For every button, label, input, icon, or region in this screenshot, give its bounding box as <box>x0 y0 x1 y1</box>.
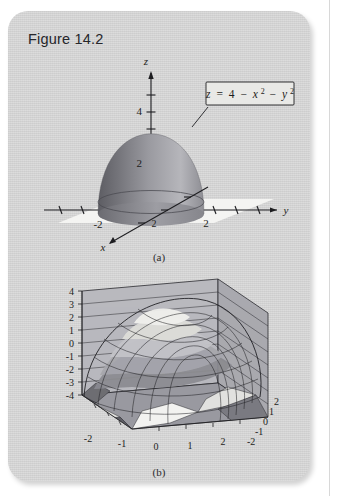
caption-a: (a) <box>8 251 310 263</box>
panel-b-z-tick-3: 3 <box>69 299 74 310</box>
x-axis-tick-2: 2 <box>152 218 157 229</box>
panel-a-svg: -2 2 2 4 2 z y x z = 4 − <box>22 47 298 251</box>
panel-b-y-tick-neg2: -2 <box>247 436 255 447</box>
panel-b-y-tick-1: 1 <box>269 406 274 417</box>
z-axis-tick-4: 4 <box>137 105 143 117</box>
panel-b-z-axis <box>78 291 82 395</box>
figure-title: Figure 14.2 <box>28 31 104 47</box>
panel-b-z-tick-1: 1 <box>69 325 74 336</box>
z-axis-tick-2: 2 <box>137 157 143 169</box>
panel-b-x-tick-1: 1 <box>188 440 193 451</box>
x-axis-label: x <box>100 241 106 251</box>
panel-b-z-tick-2: 2 <box>69 312 74 323</box>
page-gutter-rule <box>329 0 330 496</box>
z-axis-label: z <box>143 55 149 67</box>
panel-b-x-tick-0: 0 <box>154 441 159 452</box>
panel-b-z-tick-neg2: -2 <box>66 364 74 375</box>
equation-callout: z = 4 − x 2 − y 2 <box>205 82 294 105</box>
panel-b-y-tick-2: 2 <box>274 396 279 407</box>
panel-b-y-tick-0: 0 <box>263 416 268 427</box>
panel-b-mesh-plot: 4 3 2 1 0 -1 -2 -3 -4 <box>22 269 298 465</box>
figure-card: Figure 14.2 <box>8 11 310 481</box>
page-background: Figure 14.2 <box>0 0 340 496</box>
panel-b-z-tick-0: 0 <box>69 338 74 349</box>
panel-b-x-tick-neg2: -2 <box>84 433 92 444</box>
panel-b-svg: 4 3 2 1 0 -1 -2 -3 -4 <box>22 269 298 465</box>
y-axis-tick-2: 2 <box>203 217 209 229</box>
panel-b-z-tick-4: 4 <box>69 286 74 297</box>
panel-b-z-tick-neg1: -1 <box>66 351 74 362</box>
y-axis-label: y <box>283 204 289 216</box>
y-axis-tick-neg2: -2 <box>93 218 102 230</box>
panel-b-x-tick-neg1: -1 <box>118 438 126 449</box>
caption-b: (b) <box>8 466 310 478</box>
panel-b-z-tick-neg4: -4 <box>66 390 74 401</box>
panel-b-z-tick-neg3: -3 <box>66 377 74 388</box>
panel-b-y-tick-neg1: -1 <box>255 426 263 437</box>
paraboloid-surface <box>98 134 204 226</box>
panel-b-x-tick-2: 2 <box>221 436 226 447</box>
callout-leader-line <box>192 107 208 127</box>
panel-a-paraboloid-diagram: -2 2 2 4 2 z y x z = 4 − <box>22 47 298 251</box>
